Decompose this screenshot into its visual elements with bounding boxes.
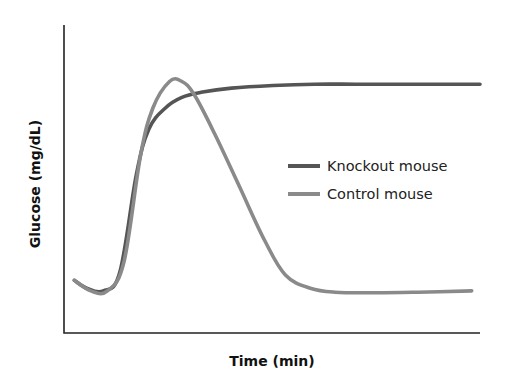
legend: Knockout mouse Control mouse <box>288 158 448 202</box>
legend-label-knockout: Knockout mouse <box>327 158 448 174</box>
y-axis-label: Glucose (mg/dL) <box>27 120 43 248</box>
legend-item-knockout: Knockout mouse <box>288 158 448 174</box>
x-axis-label: Time (min) <box>229 353 314 369</box>
legend-label-control: Control mouse <box>327 186 433 202</box>
line-chart: Glucose (mg/dL) Time (min) Knockout mous… <box>0 0 508 387</box>
legend-item-control: Control mouse <box>288 186 433 202</box>
axes-lines <box>64 25 480 333</box>
